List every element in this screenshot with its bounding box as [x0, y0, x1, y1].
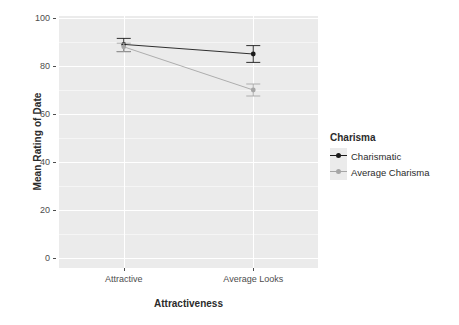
series-layer	[59, 16, 318, 268]
y-tick-label: 100	[35, 13, 50, 23]
legend-item[interactable]: Charismatic	[330, 148, 455, 164]
data-point-marker	[251, 52, 256, 57]
legend-key-icon	[330, 148, 347, 164]
x-tick-label: Attractive	[105, 274, 143, 284]
legend: Charisma CharismaticAverage Charisma	[330, 132, 455, 180]
legend-item[interactable]: Average Charisma	[330, 164, 455, 180]
data-point-marker	[251, 88, 256, 93]
y-tick-label: 20	[40, 205, 50, 215]
legend-item-label: Average Charisma	[351, 167, 430, 178]
y-tick-label: 0	[45, 253, 50, 263]
plot-panel	[59, 16, 318, 268]
y-axis: 100806040200	[30, 0, 56, 325]
y-tick-mark	[53, 114, 56, 115]
y-tick-mark	[53, 210, 56, 211]
legend-key-dot	[336, 169, 341, 174]
legend-key-icon	[330, 164, 347, 180]
series-line	[124, 47, 254, 90]
x-axis-title: Attractiveness	[59, 298, 318, 309]
x-tick-label: Average Looks	[223, 274, 283, 284]
y-tick-label: 60	[40, 109, 50, 119]
data-point-marker	[121, 44, 126, 49]
series-line	[124, 44, 254, 54]
legend-key-dot	[336, 153, 341, 158]
y-tick-mark	[53, 258, 56, 259]
legend-item-label: Charismatic	[351, 151, 401, 162]
y-tick-mark	[53, 18, 56, 19]
y-tick-label: 80	[40, 61, 50, 71]
x-tick-mark	[124, 268, 125, 271]
y-tick-mark	[53, 66, 56, 67]
y-tick-mark	[53, 162, 56, 163]
legend-items: CharismaticAverage Charisma	[330, 148, 455, 180]
legend-title: Charisma	[330, 132, 455, 143]
y-tick-label: 40	[40, 157, 50, 167]
chart-container: Mean Rating of Date 100806040200 Attract…	[0, 0, 459, 325]
x-tick-mark	[253, 268, 254, 271]
